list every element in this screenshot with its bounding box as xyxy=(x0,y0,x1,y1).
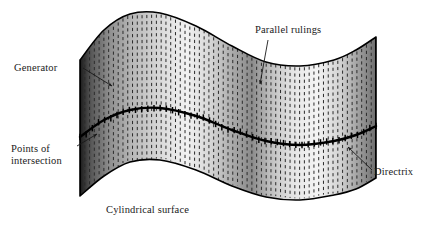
cylindrical-surface-figure: Generator Parallel rulings Points of int… xyxy=(0,0,432,230)
label-cylindrical-surface-caption: Cylindrical surface xyxy=(106,204,189,215)
label-points-of-intersection-line1: Points of xyxy=(11,143,50,154)
label-points-of-intersection: Points of intersection xyxy=(11,143,62,166)
figure-container: Generator Parallel rulings Points of int… xyxy=(0,0,432,230)
label-generator: Generator xyxy=(14,62,58,73)
label-points-of-intersection-line2: intersection xyxy=(11,155,62,166)
label-directrix: Directrix xyxy=(374,166,414,177)
label-parallel-rulings: Parallel rulings xyxy=(255,24,321,35)
